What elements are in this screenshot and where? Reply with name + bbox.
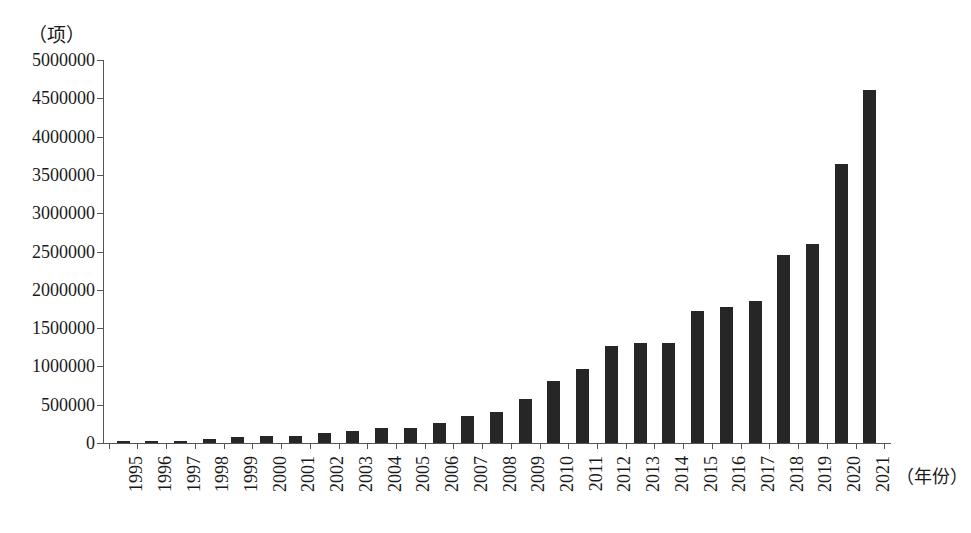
x-axis-tick-label: 2010 xyxy=(561,456,574,492)
x-axis-tick-label: 2001 xyxy=(302,456,315,492)
x-axis-tick-label: 2005 xyxy=(417,456,430,492)
x-axis-tick-label: 2021 xyxy=(877,456,890,492)
x-axis-tick-label: 2007 xyxy=(475,456,488,492)
x-axis-tick-label: 1997 xyxy=(188,456,201,492)
x-axis-tick-label: 2009 xyxy=(532,456,545,492)
x-axis-tick-label: 2003 xyxy=(360,456,373,492)
x-axis-tick-label: 1998 xyxy=(216,456,229,492)
x-axis-tick-label: 2000 xyxy=(274,456,287,492)
x-axis-tick-label: 2015 xyxy=(705,456,718,492)
x-axis-tick-label: 2011 xyxy=(590,456,603,491)
x-axis-tick-label: 2013 xyxy=(647,456,660,492)
x-axis-tick-label: 2019 xyxy=(819,456,832,492)
x-axis-tick-label: 2004 xyxy=(389,456,402,492)
x-axis-tick-label: 2014 xyxy=(676,456,689,492)
x-axis-tick-label: 2016 xyxy=(733,456,746,492)
x-axis-unit-label: （年份） xyxy=(896,462,968,488)
x-axis-tick-label: 2002 xyxy=(331,456,344,492)
x-axis-tick-label: 2008 xyxy=(504,456,517,492)
x-axis-tick-label: 1995 xyxy=(130,456,143,492)
x-axis-tick-label: 1996 xyxy=(159,456,172,492)
x-axis-tick-label: 2018 xyxy=(791,456,804,492)
x-axis-tick-label: 2006 xyxy=(446,456,459,492)
bar-chart-figure: （项） 050000010000001500000200000025000003… xyxy=(0,0,971,533)
x-axis-tick-label: 2020 xyxy=(848,456,861,492)
x-axis-tick-label: 2012 xyxy=(618,456,631,492)
x-axis-tick-label: 1999 xyxy=(245,456,258,492)
x-axis-tick-label: 2017 xyxy=(762,456,775,492)
x-axis-tick-label-group: 1995199619971998199920002001200220032004… xyxy=(0,0,971,533)
